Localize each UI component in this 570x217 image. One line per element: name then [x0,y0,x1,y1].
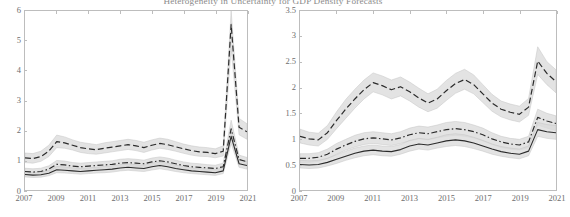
x-tick-mark-top [152,11,153,14]
x-tick-label: 2019 [505,194,535,203]
y-tick-mark [24,191,27,192]
y-tick-mark [299,36,302,37]
y-tick-mark [299,139,302,140]
x-tick-mark-top [299,11,300,14]
y-tick-mark [299,165,302,166]
x-tick-mark-top [446,11,447,14]
x-tick-label: 2009 [41,194,71,203]
x-tick-label: 2021 [542,194,570,203]
x-tick-label: 2011 [358,194,388,203]
x-tick-mark-top [248,11,249,14]
y-tick-label: 1.5 [275,109,296,118]
x-tick-label: 2009 [321,194,351,203]
y-tick-label: 3 [275,31,296,40]
y-tick-mark [24,131,27,132]
x-tick-mark-top [88,11,89,14]
chart-panel-left: 0123456 20072009201120132015201720192021 [0,0,262,217]
plot-svg-left [25,11,247,190]
x-tick-mark-top [520,11,521,14]
chart-panel-right: 00.511.522.533.5 20072009201120132015201… [262,0,546,217]
y-tick-label: 1 [0,156,21,165]
x-tick-mark-top [56,11,57,14]
y-tick-label: 1 [275,135,296,144]
y-tick-label: 5 [0,36,21,45]
x-tick-label: 2015 [137,194,167,203]
x-tick-mark-top [557,11,558,14]
x-tick-label: 2007 [284,194,314,203]
y-tick-label: 4 [0,66,21,75]
y-tick-label: 6 [0,6,21,15]
y-tick-label: 2 [275,83,296,92]
x-tick-label: 2021 [233,194,263,203]
y-tick-label: 3 [0,96,21,105]
y-tick-label: 2.5 [275,57,296,66]
y-tick-mark [299,191,302,192]
y-tick-mark [24,101,27,102]
confidence-band-upper-dashed [25,11,247,163]
y-tick-mark [299,62,302,63]
y-tick-mark [24,70,27,71]
y-tick-mark [24,40,27,41]
x-tick-mark-top [184,11,185,14]
y-tick-mark [299,88,302,89]
x-tick-label: 2017 [468,194,498,203]
x-tick-mark-top [216,11,217,14]
x-tick-label: 2007 [9,194,39,203]
x-tick-label: 2017 [169,194,199,203]
plot-area-left [24,10,248,191]
x-tick-label: 2013 [395,194,425,203]
x-tick-label: 2015 [431,194,461,203]
x-tick-label: 2019 [201,194,231,203]
x-tick-mark-top [410,11,411,14]
y-tick-label: 0.5 [275,161,296,170]
x-tick-mark-top [24,11,25,14]
x-tick-mark-top [120,11,121,14]
x-tick-label: 2013 [105,194,135,203]
x-tick-mark-top [373,11,374,14]
y-tick-label: 2 [0,126,21,135]
plot-area-right [299,10,557,191]
y-tick-mark [299,113,302,114]
plot-svg-right [300,11,556,190]
x-tick-label: 2011 [73,194,103,203]
x-tick-mark-top [336,11,337,14]
y-tick-mark [24,161,27,162]
x-tick-mark-top [483,11,484,14]
y-tick-label: 3.5 [275,6,296,15]
